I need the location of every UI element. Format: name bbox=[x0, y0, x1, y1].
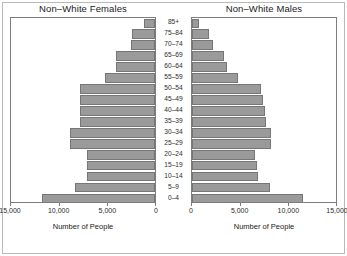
plot-area-male bbox=[191, 17, 337, 203]
bar-row bbox=[11, 149, 155, 160]
bar-15_19 bbox=[87, 161, 155, 171]
age-group-label: 35–39 bbox=[156, 117, 191, 125]
x-axis-title-female: Number of People bbox=[10, 222, 156, 231]
axis-tick-label: 0 bbox=[154, 207, 158, 214]
bar-0_4 bbox=[192, 194, 303, 203]
bar-40_44 bbox=[80, 106, 155, 116]
bar-series-male bbox=[192, 18, 336, 202]
bar-55_59 bbox=[105, 73, 155, 83]
age-group-label: 20–24 bbox=[156, 150, 191, 158]
age-group-label: 55–59 bbox=[156, 73, 191, 81]
bar-row bbox=[11, 18, 155, 29]
age-group-label: 30–34 bbox=[156, 128, 191, 136]
bar-row bbox=[11, 193, 155, 203]
age-group-label: 5–9 bbox=[156, 183, 191, 191]
bar-75_84 bbox=[132, 29, 155, 39]
bar-row bbox=[192, 40, 336, 51]
bar-0_4 bbox=[42, 194, 155, 203]
age-group-label: 65–69 bbox=[156, 51, 191, 59]
axis-tick-label: 15,000 bbox=[0, 207, 21, 214]
axis-tick bbox=[10, 203, 11, 206]
plot-area-female bbox=[10, 17, 156, 203]
axis-tick bbox=[240, 203, 241, 206]
bar-65_69 bbox=[116, 51, 155, 61]
bar-45_49 bbox=[80, 95, 155, 105]
bar-30_34 bbox=[70, 128, 155, 138]
bar-55_59 bbox=[192, 73, 238, 83]
axis-tick-label: 10,000 bbox=[48, 207, 69, 214]
bar-60_64 bbox=[116, 62, 155, 72]
bar-row bbox=[11, 138, 155, 149]
age-group-label: 40–44 bbox=[156, 106, 191, 114]
bar-35_39 bbox=[80, 117, 155, 127]
bar-row bbox=[11, 160, 155, 171]
axis-tick bbox=[155, 203, 156, 206]
bar-row bbox=[11, 116, 155, 127]
bar-row bbox=[192, 149, 336, 160]
x-axis-female: 15,00010,0005,0000 bbox=[10, 203, 156, 219]
bar-row bbox=[11, 95, 155, 106]
bar-5_9 bbox=[192, 183, 270, 193]
bar-50_54 bbox=[80, 84, 155, 94]
bar-5_9 bbox=[75, 183, 155, 193]
bar-75_84 bbox=[192, 29, 209, 39]
bar-row bbox=[11, 182, 155, 193]
axis-tick bbox=[107, 203, 108, 206]
age-group-label: 15–19 bbox=[156, 161, 191, 169]
bar-45_49 bbox=[192, 95, 263, 105]
axis-tick bbox=[191, 203, 192, 206]
panel-title-male: Non–White Males bbox=[191, 3, 337, 14]
axis-tick-label: 5,000 bbox=[99, 207, 117, 214]
axis-tick bbox=[336, 203, 337, 206]
bar-row bbox=[192, 18, 336, 29]
bar-25_29 bbox=[70, 139, 155, 149]
bar-50_54 bbox=[192, 84, 261, 94]
bar-60_64 bbox=[192, 62, 227, 72]
bar-row bbox=[192, 116, 336, 127]
bar-row bbox=[192, 95, 336, 106]
age-group-label: 60–64 bbox=[156, 62, 191, 70]
age-group-label: 75–84 bbox=[156, 29, 191, 37]
bar-25_29 bbox=[192, 139, 271, 149]
bar-85+ bbox=[144, 19, 155, 29]
axis-tick bbox=[288, 203, 289, 206]
bar-40_44 bbox=[192, 106, 265, 116]
bar-10_14 bbox=[87, 172, 155, 182]
bar-row bbox=[11, 62, 155, 73]
age-group-label: 25–29 bbox=[156, 139, 191, 147]
axis-tick-label: 5,000 bbox=[231, 207, 249, 214]
bar-row bbox=[11, 127, 155, 138]
bar-row bbox=[11, 40, 155, 51]
age-group-label: 10–14 bbox=[156, 172, 191, 180]
bar-70_74 bbox=[131, 40, 155, 50]
bar-row bbox=[192, 62, 336, 73]
x-axis-title-male: Number of People bbox=[191, 222, 337, 231]
bar-row bbox=[192, 171, 336, 182]
bar-row bbox=[192, 193, 336, 203]
bar-30_34 bbox=[192, 128, 271, 138]
bar-row bbox=[192, 138, 336, 149]
age-group-label: 0–4 bbox=[156, 194, 191, 202]
age-group-label: 70–74 bbox=[156, 40, 191, 48]
bar-row bbox=[11, 171, 155, 182]
bar-row bbox=[192, 182, 336, 193]
bar-85+ bbox=[192, 19, 199, 29]
bar-row bbox=[11, 106, 155, 117]
x-axis-male: 05,00010,00015,000 bbox=[191, 203, 337, 219]
bar-row bbox=[192, 127, 336, 138]
axis-tick-label: 10,000 bbox=[278, 207, 299, 214]
age-group-label: 45–49 bbox=[156, 95, 191, 103]
bar-35_39 bbox=[192, 117, 266, 127]
bar-row bbox=[11, 84, 155, 95]
bar-row bbox=[192, 51, 336, 62]
bar-row bbox=[192, 29, 336, 40]
bar-row bbox=[192, 106, 336, 117]
axis-tick-label: 15,000 bbox=[326, 207, 347, 214]
axis-tick bbox=[59, 203, 60, 206]
bar-row bbox=[192, 84, 336, 95]
bar-row bbox=[192, 160, 336, 171]
population-pyramid-figure: Non–White Females 15,00010,0005,0000 Num… bbox=[0, 0, 347, 256]
age-group-label: 50–54 bbox=[156, 84, 191, 92]
bar-20_24 bbox=[192, 150, 255, 160]
bar-row bbox=[11, 51, 155, 62]
